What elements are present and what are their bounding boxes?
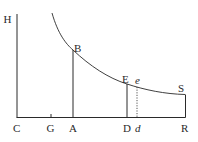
label-e-italic: e — [135, 74, 140, 86]
label-d-italic: d — [135, 122, 141, 134]
label-d: D — [123, 122, 131, 134]
label-e: E — [122, 73, 129, 85]
label-g: G — [47, 122, 55, 134]
label-a: A — [69, 122, 77, 134]
label-c: C — [13, 122, 20, 134]
geometric-diagram: H B E e S C G A D d R — [0, 0, 198, 142]
hyperbola-curve — [52, 13, 185, 95]
label-b: B — [74, 42, 81, 54]
label-h: H — [4, 13, 12, 25]
label-s: S — [178, 82, 184, 94]
label-r: R — [181, 122, 189, 134]
